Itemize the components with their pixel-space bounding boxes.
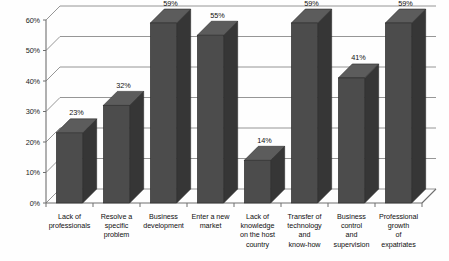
- bar-3: [150, 9, 190, 203]
- category-label-7: Business: [337, 212, 366, 221]
- bar-side-face: [130, 91, 144, 203]
- bar-4: [197, 21, 237, 203]
- bar-side-face: [177, 9, 191, 203]
- category-label-1: professionals: [49, 221, 91, 230]
- value-label-8: 59%: [398, 0, 413, 8]
- category-label-8: of: [396, 230, 402, 239]
- bar-side-face: [224, 21, 238, 203]
- category-label-7: supervision: [334, 240, 370, 249]
- category-label-3: development: [143, 221, 184, 230]
- bar-front-face: [338, 78, 364, 203]
- bar-front-face: [103, 105, 129, 203]
- category-label-6: know-how: [289, 240, 322, 249]
- category-label-8: Professional: [379, 212, 418, 221]
- chart-canvas: 0%10%20%30%40%50%60% 23%32%59%55%14%59%4…: [0, 0, 449, 261]
- value-label-2: 32%: [116, 81, 131, 90]
- bar-side-face: [318, 9, 332, 203]
- category-label-2: Resolve a: [101, 212, 133, 221]
- category-label-1: Lack of: [58, 212, 81, 221]
- category-label-6: and: [299, 230, 311, 239]
- category-label-7: and: [346, 230, 358, 239]
- y-axis-label: 40%: [26, 77, 41, 86]
- y-axis-label: 50%: [26, 46, 41, 55]
- bar-side-face: [83, 119, 97, 203]
- bar-front-face: [197, 35, 223, 203]
- value-label-5: 14%: [257, 136, 272, 145]
- value-label-6: 59%: [304, 0, 319, 8]
- category-label-5: Lack of: [246, 212, 269, 221]
- bar-2: [103, 91, 143, 203]
- y-axis-label: 10%: [26, 168, 41, 177]
- category-label-4: Enter a new: [192, 212, 231, 221]
- bar-6: [291, 9, 331, 203]
- category-label-3: Business: [149, 212, 178, 221]
- bar-front-face: [244, 160, 270, 203]
- y-axis-label: 30%: [26, 107, 41, 116]
- category-label-6: technology: [287, 221, 322, 230]
- category-label-5: country: [246, 240, 270, 249]
- bar-front-face: [385, 23, 411, 203]
- category-label-5: on the host: [240, 230, 275, 239]
- bar-side-face: [365, 64, 379, 203]
- y-axis-label: 20%: [26, 138, 41, 147]
- bar-7: [338, 64, 378, 203]
- category-label-8: expatriates: [381, 240, 416, 249]
- y-axis-label: 0%: [30, 199, 41, 208]
- value-label-3: 59%: [163, 0, 178, 8]
- category-label-7: control: [341, 221, 363, 230]
- category-label-5: knowledge: [241, 221, 275, 230]
- bar-front-face: [150, 23, 176, 203]
- category-label-2: problem: [104, 230, 130, 239]
- bar-8: [385, 9, 425, 203]
- bar-1: [56, 119, 96, 203]
- y-axis-label: 60%: [26, 16, 41, 25]
- category-label-8: growth: [388, 221, 409, 230]
- bar-front-face: [56, 133, 82, 203]
- category-label-2: specific: [105, 221, 129, 230]
- bar-5: [244, 146, 284, 203]
- value-label-4: 55%: [210, 11, 225, 20]
- value-label-1: 23%: [69, 108, 84, 117]
- value-label-7: 41%: [351, 53, 366, 62]
- bar-side-face: [412, 9, 426, 203]
- bar-chart: 0%10%20%30%40%50%60% 23%32%59%55%14%59%4…: [0, 0, 449, 261]
- category-label-6: Transfer of: [288, 212, 322, 221]
- category-label-4: market: [200, 221, 222, 230]
- bar-front-face: [291, 23, 317, 203]
